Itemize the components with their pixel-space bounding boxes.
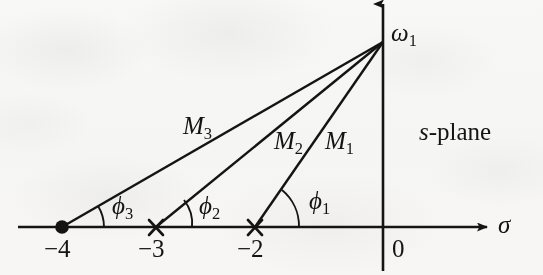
s-plane-suffix: -plane — [429, 118, 491, 145]
phi2-symbol: ϕ — [199, 192, 212, 219]
angle-arc-phi3 — [98, 206, 104, 227]
axis-tick-origin: 0 — [392, 236, 405, 261]
real-axis-label: σ — [498, 212, 510, 237]
axis-tick-origin-text: 0 — [392, 235, 405, 262]
axis-tick-minus4: −4 — [44, 236, 71, 261]
s-plane-label: s-plane — [419, 119, 491, 144]
axis-tick-minus3-text: −3 — [138, 235, 165, 262]
zero-marker-minus4 — [55, 220, 69, 234]
s-plane-figure: ω1 σ s-plane −4 −3 −2 0 M3 M2 M1 ϕ3 ϕ2 ϕ… — [0, 0, 543, 275]
axis-tick-minus2: −2 — [237, 236, 264, 261]
vector-m3-subscript: 3 — [204, 124, 212, 143]
vector-m2-subscript: 2 — [295, 139, 303, 158]
omega-subscript: 1 — [409, 31, 417, 50]
axis-tick-minus3: −3 — [138, 236, 165, 261]
vector-label-m3: M3 — [183, 113, 212, 142]
angle-label-phi3: ϕ3 — [112, 193, 133, 222]
phi1-subscript: 1 — [322, 199, 330, 218]
phi3-subscript: 3 — [125, 204, 133, 223]
phi3-symbol: ϕ — [112, 192, 125, 219]
angle-label-phi1: ϕ1 — [309, 188, 330, 217]
phi1-symbol: ϕ — [309, 187, 322, 214]
angle-arc-phi1 — [282, 190, 299, 227]
angle-label-phi2: ϕ2 — [199, 193, 220, 222]
sigma-symbol: σ — [498, 211, 510, 238]
vector-m2-name: M — [274, 127, 295, 154]
axis-tick-minus2-text: −2 — [237, 235, 264, 262]
vector-label-m1: M1 — [325, 128, 354, 157]
imaginary-axis-label: ω1 — [391, 20, 417, 49]
omega-symbol: ω — [391, 19, 409, 46]
vector-label-m2: M2 — [274, 128, 303, 157]
axis-tick-minus4-text: −4 — [44, 235, 71, 262]
vector-m3-name: M — [183, 112, 204, 139]
vector-m1-name: M — [325, 127, 346, 154]
vector-m1-subscript: 1 — [346, 139, 354, 158]
phi2-subscript: 2 — [212, 204, 220, 223]
s-plane-italic-s: s — [419, 118, 429, 145]
